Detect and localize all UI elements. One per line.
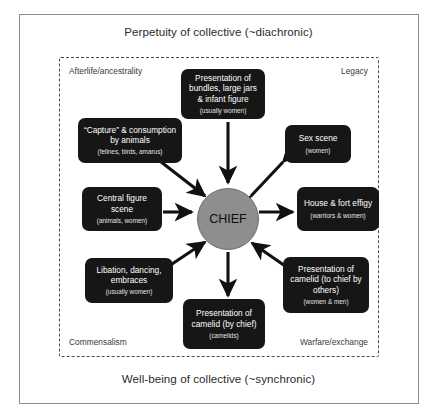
diagram-figure: Perpetuity of collective (~diachronic) W… [0,0,437,418]
node-house-and-fort-effigy: House & fort effigy (warriors & women) [297,187,379,231]
node-title: House & fort effigy [304,198,372,208]
node-presentation-camelid-to-chief: Presentation of camelid (to chief by oth… [283,257,369,313]
node-subtitle: (felines, birds, amarus) [98,147,163,156]
corner-label-commensalism: Commensalism [69,337,127,347]
node-title: Presentation of camelid (by chief) [188,308,260,328]
node-title: Presentation of camelid (to chief by oth… [288,264,364,295]
axis-label-top: Perpetuity of collective (~diachronic) [0,25,437,38]
node-title: Libation, dancing, embraces [90,265,168,285]
node-subtitle: (animals, women) [97,216,147,225]
node-title: “Capture” & consumption by animals [83,125,177,145]
node-presentation-of-bundles: Presentation of bundles, large jars & in… [181,69,265,119]
node-title: Central figure scene [87,193,157,213]
node-sex-scene: Sex scene (women) [285,125,351,163]
node-subtitle: (women & men) [303,297,348,306]
center-node-chief: CHIEF [197,188,259,250]
axis-label-bottom: Well-being of collective (~synchronic) [0,372,437,385]
node-subtitle: (women) [306,146,331,155]
node-central-figure-scene: Central figure scene (animals, women) [82,187,162,231]
node-subtitle: (camelids) [209,331,238,340]
node-title: Presentation of bundles, large jars & in… [186,73,260,104]
corner-label-afterlife-ancestrality: Afterlife/ancestrality [69,66,142,76]
corner-label-warfare-exchange: Warfare/exchange [300,337,368,347]
corner-label-legacy: Legacy [341,66,368,76]
node-subtitle: (warriors & women) [310,211,365,220]
node-capture-and-consumption: “Capture” & consumption by animals (feli… [78,118,182,163]
node-title: Sex scene [299,133,338,143]
node-subtitle: (usually women) [106,287,153,296]
node-subtitle: (usually women) [200,106,247,115]
node-presentation-camelid-by-chief: Presentation of camelid (by chief) (came… [183,299,265,349]
node-libation-dancing-embraces: Libation, dancing, embraces (usually wom… [85,258,173,303]
